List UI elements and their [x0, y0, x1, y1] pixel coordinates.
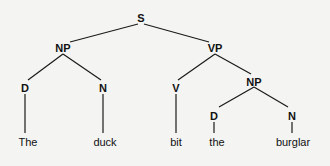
edge-s-vp	[144, 24, 209, 42]
leaf-duck: duck	[93, 136, 117, 148]
node-n-subject: N	[99, 82, 107, 94]
edge-np2-n	[254, 87, 288, 107]
leaf-bit: bit	[170, 136, 182, 148]
node-s: S	[137, 12, 144, 24]
edge-vp-v	[178, 54, 215, 80]
node-d-subject: D	[21, 82, 29, 94]
tree-leaves: The duck bit the burglar	[19, 136, 311, 148]
parse-tree-diagram: S NP VP D N V NP D N The duck bit the bu…	[0, 0, 330, 166]
node-np-object: NP	[246, 76, 261, 88]
leaf-burglar: burglar	[276, 136, 311, 148]
node-d-object: D	[210, 110, 218, 122]
edge-s-np	[70, 24, 138, 42]
edge-np2-d	[219, 87, 254, 107]
node-n-object: N	[288, 110, 296, 122]
node-vp: VP	[208, 42, 223, 54]
leaf-the-object: the	[209, 136, 224, 148]
edge-np-d	[28, 54, 63, 80]
edge-vp-np	[215, 54, 251, 74]
node-np-subject: NP	[55, 42, 70, 54]
edge-np-n	[63, 54, 101, 80]
node-v: V	[172, 82, 180, 94]
leaf-the: The	[19, 136, 38, 148]
